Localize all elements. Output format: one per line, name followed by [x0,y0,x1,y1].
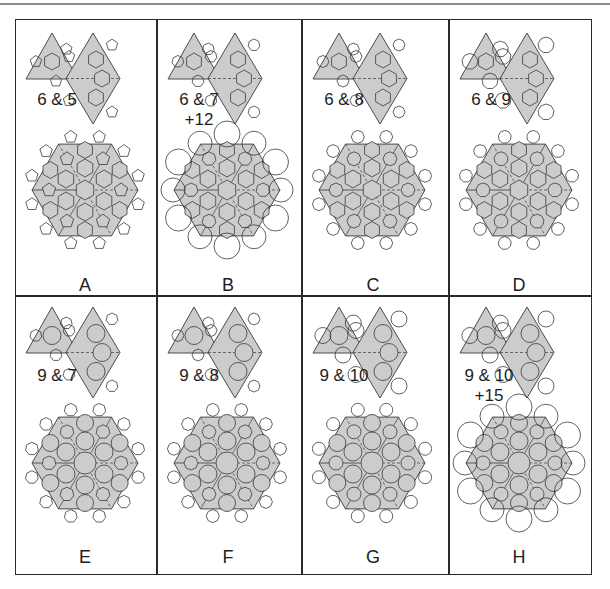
panel-f: 9 & 8 F [157,296,302,575]
panel-letter: B [208,275,248,296]
panel-letter: F [208,547,248,568]
polygon-pair-label: 6 & 7 [169,90,229,110]
panel-letter: C [353,275,393,296]
panel-d: 6 & 9 D [449,19,592,295]
polygon-pair-label: 9 & 10 [310,366,378,386]
extra-count-label: +15 [455,386,523,406]
tiling-diagram-a [15,19,157,295]
panel-letter: E [65,547,105,568]
polygon-pair-label: 9 & 8 [169,366,229,386]
tiling-diagram-g [302,296,448,575]
polygon-pair-label: 9 & 10 [455,366,523,386]
panel-h: 9 & 10 +15 H [449,296,592,575]
polygon-pair-label: 9 & 7 [27,366,87,386]
tiling-diagram-c [302,19,448,295]
tiling-diagram-f [157,296,302,575]
panel-e: 9 & 7 E [15,296,157,575]
polygon-pair-label: 6 & 8 [314,90,374,110]
extra-count-label: +12 [169,110,229,130]
polygon-pair-label: 6 & 9 [461,90,521,110]
panel-g: 9 & 10 G [302,296,448,575]
top-rule [0,3,610,5]
tiling-diagram-d [449,19,592,295]
panel-c: 6 & 8 C [302,19,448,295]
tiling-diagram-e [15,296,157,575]
panel-letter: D [499,275,539,296]
tiling-diagram-h [449,296,592,575]
polygon-pair-label: 6 & 5 [27,90,87,110]
tiling-diagram-b [157,19,302,295]
panel-b: 6 & 7 +12 B [157,19,302,295]
panel-letter: A [65,275,105,296]
panel-letter: H [499,547,539,568]
panel-a: 6 & 5 A [15,19,157,295]
panel-letter: G [353,547,393,568]
